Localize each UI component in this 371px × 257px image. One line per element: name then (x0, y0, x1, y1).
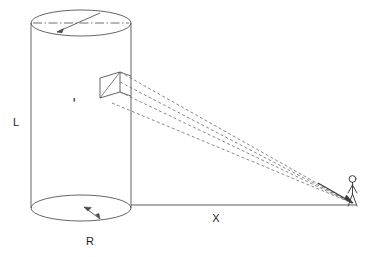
diagram-root: L R X (0, 0, 371, 257)
patch-front-top-edge (100, 72, 120, 78)
cylinder-surface-tick (74, 98, 76, 102)
sight-line-2 (120, 82, 352, 203)
sight-line-4 (112, 103, 352, 203)
cylinder-observer-diagram: L R X (0, 0, 371, 257)
label-radius-R: R (86, 235, 94, 247)
sight-line-1 (120, 72, 352, 203)
observer-arm-right (353, 185, 358, 193)
label-distance-X: X (212, 212, 220, 224)
observer-head (349, 176, 356, 183)
observer-arm-left (348, 185, 353, 193)
patch-depth-edge-diagonal (100, 72, 120, 98)
patch-front-bottom-edge (100, 92, 120, 98)
cylinder (31, 10, 131, 221)
radius-arrowhead-inner (84, 207, 91, 211)
observer-leg-right (353, 194, 358, 206)
cylinder-top-radius-arrowhead (57, 29, 63, 33)
label-length-L: L (13, 116, 19, 128)
sight-line-bundle (112, 72, 352, 203)
cylinder-bottom-ellipse (31, 195, 131, 221)
sight-line-3 (120, 92, 352, 203)
observer (348, 176, 357, 206)
